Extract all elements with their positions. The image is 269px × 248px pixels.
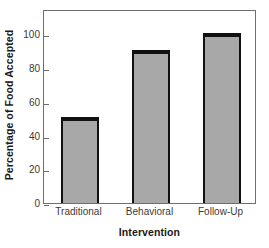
x-axis-tick-label: Behavioral bbox=[126, 206, 173, 218]
y-axis-tick-labels: 020406080100 bbox=[14, 0, 40, 248]
y-axis-tick-mark bbox=[44, 104, 49, 105]
x-axis-tick-labels: TraditionalBehavioralFollow-Up bbox=[43, 206, 256, 222]
plot-area bbox=[43, 10, 256, 204]
x-axis-tick-label: Traditional bbox=[55, 206, 101, 218]
bar-behavioral bbox=[132, 50, 170, 204]
y-axis-tick-label: 60 bbox=[14, 98, 40, 108]
bar-traditional bbox=[61, 117, 99, 203]
y-axis-tick-label: 20 bbox=[14, 165, 40, 175]
y-axis-tick-label: 0 bbox=[14, 199, 40, 209]
y-axis-tick-label: 80 bbox=[14, 64, 40, 74]
y-axis-tick-mark bbox=[44, 138, 49, 139]
bar-chart-figure: Percentage of Food Accepted 020406080100… bbox=[0, 0, 269, 248]
y-axis-tick-mark bbox=[44, 171, 49, 172]
y-axis-tick-label: 40 bbox=[14, 132, 40, 142]
y-axis-tick-label: 100 bbox=[14, 30, 40, 40]
bar-follow-up bbox=[203, 33, 241, 203]
y-axis-tick-mark bbox=[44, 70, 49, 71]
x-axis-tick-label: Follow-Up bbox=[198, 206, 243, 218]
x-axis-title: Intervention bbox=[43, 226, 256, 238]
y-axis-tick-mark bbox=[44, 36, 49, 37]
